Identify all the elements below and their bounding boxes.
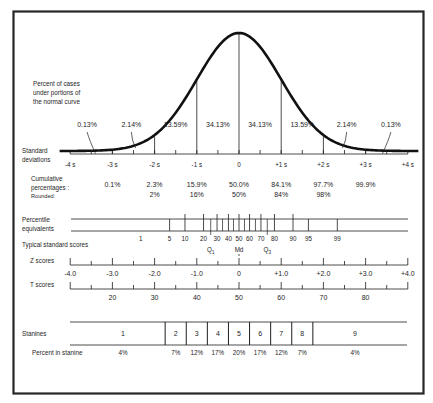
t-score-label: 40 [193,294,201,301]
percentile-label: 50 [235,235,243,242]
z-score-label: +3.0 [359,270,373,277]
stanine-percent: 12% [275,349,288,356]
stanine-number: 2 [174,330,178,337]
sd-tick-label: +3 s [360,161,372,168]
percentile-label: 5 [168,235,172,242]
label-percent-in-stanine: Percent in stanine [32,349,83,356]
stanine-percent: 7% [171,349,181,356]
cumulative-percent: 84.1% [271,181,291,188]
t-score-label: 60 [277,294,285,301]
stanine-number: 4 [216,330,220,337]
label-percent-cases-2: under portions of [33,89,81,97]
sd-tick-label: +4 s [402,161,414,168]
label-standard-deviations-2: deviations [22,156,50,163]
normal-curve-chart: Percent of cases under portions of the n… [0,0,433,403]
cumulative-percent: 99.9% [356,181,376,188]
cumulative-rounded: 98% [316,191,330,198]
label-typical-standard-scores: Typical standard scores [22,241,88,249]
percentile-label: 30 [214,235,222,242]
stanine-number: 8 [300,330,304,337]
label-cumulative-3: Rounded: [31,193,56,199]
cumulative-rounded: 16% [190,191,204,198]
cumulative-percent: 0.1% [104,181,120,188]
percentile-label: 20 [200,235,208,242]
cumulative-percent: 15.9% [187,181,207,188]
area-percent-label: 2.14% [337,121,357,128]
cumulative-rounded: 84% [274,191,288,198]
t-score-label: 20 [109,294,117,301]
sd-tick-label: +2 s [317,161,329,168]
stanine-number: 3 [195,330,199,337]
label-cumulative-1: Cumulative [31,175,63,182]
percentile-label: 90 [290,235,298,242]
z-score-label: -4.0 [64,270,76,277]
label-z-scores: Z scores [30,257,54,264]
area-percent-label: 34.13% [206,121,230,128]
cumulative-rounded: 2% [150,191,160,198]
percentile-label: 60 [246,235,254,242]
percentile-label: 95 [305,235,313,242]
sd-tick-label: -2 s [149,161,160,168]
label-percentile-1: Percentile [22,216,50,223]
cumulative-rounded: 50% [232,191,246,198]
z-score-label: -1.0 [191,270,203,277]
stanine-number: 7 [279,330,283,337]
sd-tick-label: 0 [237,161,241,168]
stanine-percent: 20% [233,349,246,356]
cumulative-percent: 50.0% [229,181,249,188]
sd-tick-label: -1 s [192,161,203,168]
area-percent-label: 0.13% [381,121,401,128]
area-percent-label: 13.59% [290,121,314,128]
stanine-percent: 4% [118,349,128,356]
stanine-percent: 7% [298,349,308,356]
percentile-label: 80 [271,235,279,242]
t-score-label: 70 [320,294,328,301]
stanine-percent: 12% [190,349,203,356]
percentile-label: 1 [139,235,143,242]
stanine-number: 6 [258,330,262,337]
area-percent-label: 13.59% [164,121,188,128]
stanine-percent: 4% [350,349,360,356]
label-percent-cases-3: the normal curve [33,98,80,105]
area-percent-label: 34.13% [248,121,272,128]
sd-tick-label: -3 s [107,161,118,168]
cumulative-percent: 2.3% [147,181,163,188]
area-percent-label: 0.13% [77,121,97,128]
z-score-label: -3.0 [106,270,118,277]
percentile-label: 10 [181,235,189,242]
label-cumulative-2: percentages : [31,184,69,192]
stanine-percent: 17% [254,349,267,356]
z-score-label: +1.0 [274,270,288,277]
sd-tick-label: +1 s [275,161,287,168]
area-percent-label: 2.14% [121,121,141,128]
cumulative-percent: 97.7% [313,181,333,188]
quartile-label: Md [235,246,244,253]
z-score-label: +4.0 [401,270,415,277]
stanine-number: 9 [353,330,357,337]
percentile-label: 99 [334,235,342,242]
z-score-label: 0 [237,270,241,277]
z-score-label: +2.0 [316,270,330,277]
percentile-label: 40 [225,235,233,242]
label-t-scores: T scores [30,281,54,288]
sd-tick-label: -4 s [65,161,76,168]
stanine-number: 1 [121,330,125,337]
t-score-label: 50 [235,294,243,301]
percentile-label: 70 [257,235,265,242]
stanine-number: 5 [237,330,241,337]
label-stanines: Stanines [22,330,47,337]
label-standard-deviations-1: Standard [22,147,48,154]
label-percentile-2: equivalents [22,225,54,233]
t-score-label: 80 [362,294,370,301]
label-percent-cases-1: Percent of cases [33,80,80,87]
t-score-label: 30 [151,294,159,301]
z-score-label: -2.0 [149,270,161,277]
stanine-percent: 17% [212,349,225,356]
